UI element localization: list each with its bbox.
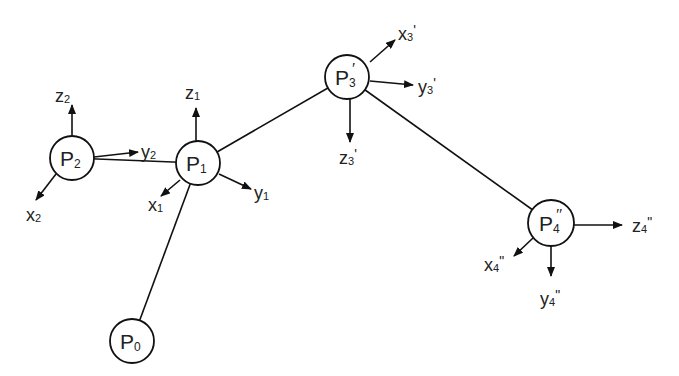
links <box>72 77 551 341</box>
axis-arrow-y2-icon <box>94 152 138 157</box>
axis-label-z4: z4" <box>632 214 652 236</box>
axis-label-y2: y2 <box>141 142 156 162</box>
axis-label-z1: z1 <box>185 83 200 103</box>
node-prime: ″ <box>556 206 563 223</box>
axis-arrow-x1-icon <box>161 180 180 196</box>
node-p4pp: P4″ <box>528 200 574 246</box>
axis-label-z2: z2 <box>55 86 70 106</box>
node-prime: ′ <box>352 60 356 77</box>
axis-label-z3: z3' <box>339 146 357 168</box>
node-p1: P1 <box>176 141 220 185</box>
node-p0: P0 <box>110 319 154 363</box>
axis-arrow-y3-icon <box>370 81 413 85</box>
joint-nodes: P0P1P2P3′P4″ <box>50 55 574 363</box>
kinematic-chain-diagram: P0P1P2P3′P4″ z2y2x2z1y1x1x3'y3'z3'z4"x4"… <box>0 0 679 376</box>
node-p2: P2 <box>50 136 94 180</box>
axis-label-x1: x1 <box>148 195 163 215</box>
axis-arrow-x3-icon <box>370 40 395 62</box>
axis-arrow-x2-icon <box>36 174 56 200</box>
axis-label-x2: x2 <box>26 205 41 225</box>
axis-label-y1: y1 <box>254 183 269 203</box>
axis-label-x3: x3' <box>398 22 416 44</box>
axis-arrow-x4-icon <box>514 238 533 256</box>
axis-arrow-y1-icon <box>219 174 251 189</box>
link-p1-p3p <box>198 77 347 163</box>
link-p0-p1 <box>132 163 198 341</box>
axis-label-y3: y3' <box>418 75 436 97</box>
axis-label-x4: x4" <box>484 253 504 275</box>
axis-label-y4: y4" <box>540 287 560 309</box>
node-p3p: P3′ <box>325 55 369 99</box>
link-p3p-p4pp <box>347 77 551 223</box>
